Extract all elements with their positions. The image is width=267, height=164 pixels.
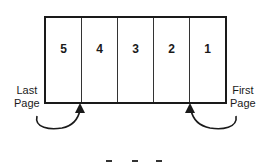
arrows-layer <box>0 0 267 164</box>
cropped-text-fragment <box>100 158 170 164</box>
last-page-arrow-icon <box>37 103 85 129</box>
first-page-arrow-icon <box>185 103 236 129</box>
